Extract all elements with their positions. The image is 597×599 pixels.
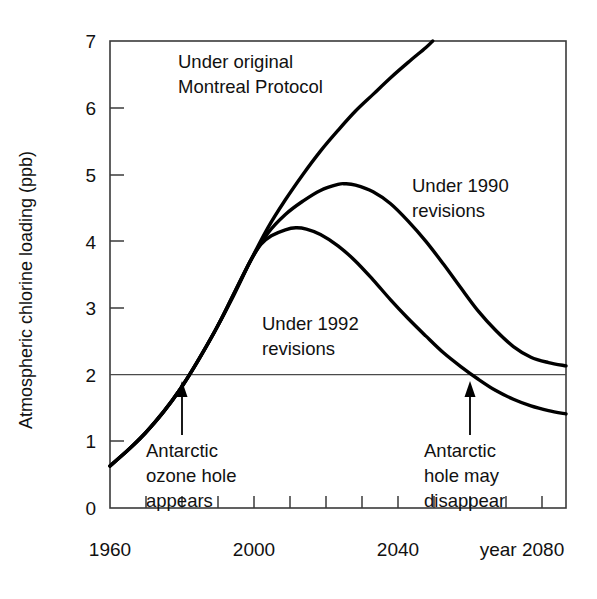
label-1992-revisions-line2: revisions <box>262 338 335 359</box>
label-1990-revisions-line1: Under 1990 <box>412 175 509 196</box>
y-axis-title: Atmospheric chlorine loading (ppb) <box>16 151 36 429</box>
annotation-hole-may-disappear: Antarctic hole may disappear <box>424 381 505 511</box>
chlorine-loading-figure: Atmospheric chlorine loading (ppb) 7 6 5… <box>0 0 597 599</box>
annotation-right-line3: disappear <box>424 490 505 511</box>
x-tick-label-2080: year 2080 <box>480 539 565 560</box>
y-tick-marks <box>110 108 124 441</box>
y-tick-label-4: 4 <box>85 232 96 253</box>
series-inline-labels: Under original Montreal Protocol Under 1… <box>178 51 509 359</box>
chart-canvas: Atmospheric chlorine loading (ppb) 7 6 5… <box>0 0 597 599</box>
annotation-left-line3: appears <box>146 490 213 511</box>
label-original-montreal-protocol-line2: Montreal Protocol <box>178 76 323 97</box>
plot-frame <box>110 41 566 508</box>
x-tick-label-2040: 2040 <box>377 539 419 560</box>
x-tick-label-1960: 1960 <box>89 539 131 560</box>
y-tick-label-2: 2 <box>85 365 96 386</box>
series-path-1992-revisions <box>110 228 566 466</box>
annotation-ozone-hole-appears: Antarctic ozone hole appears <box>146 381 237 511</box>
series-path-original-montreal-protocol <box>110 41 433 466</box>
annotation-right-line2: hole may <box>424 465 500 486</box>
y-tick-label-6: 6 <box>85 98 96 119</box>
y-tick-label-5: 5 <box>85 165 96 186</box>
y-tick-label-7: 7 <box>85 31 96 52</box>
y-tick-label-1: 1 <box>85 431 96 452</box>
label-1990-revisions-line2: revisions <box>412 200 485 221</box>
x-tick-labels: 1960 2000 2040 year 2080 <box>89 539 564 560</box>
annotation-arrow-head-right <box>465 381 476 397</box>
annotation-left-line2: ozone hole <box>146 465 237 486</box>
y-tick-label-0: 0 <box>85 498 96 519</box>
y-tick-labels: 7 6 5 4 3 2 1 0 <box>85 31 96 519</box>
y-tick-label-3: 3 <box>85 298 96 319</box>
label-original-montreal-protocol-line1: Under original <box>178 51 293 72</box>
annotation-left-line1: Antarctic <box>146 440 218 461</box>
series-group <box>110 41 566 466</box>
annotation-right-line1: Antarctic <box>424 440 496 461</box>
label-1992-revisions-line1: Under 1992 <box>262 313 359 334</box>
x-tick-label-2000: 2000 <box>233 539 275 560</box>
y-axis-title-text: Atmospheric chlorine loading (ppb) <box>16 151 36 429</box>
